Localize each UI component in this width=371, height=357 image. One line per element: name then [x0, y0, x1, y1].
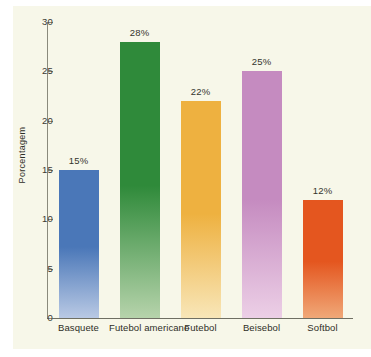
y-tick-label-row: 20 — [12, 115, 53, 127]
bar-value-label: 15% — [69, 155, 89, 166]
bar[interactable] — [181, 101, 221, 318]
bar-value-label: 25% — [252, 56, 272, 67]
bar-slot: 25% — [231, 22, 292, 318]
x-axis-category-label: Futebol americano — [109, 322, 170, 333]
bar-value-label: 12% — [313, 185, 333, 196]
x-axis-category-label: Futebol — [170, 322, 231, 333]
bar[interactable] — [242, 71, 282, 318]
y-tick-label-row: 30 — [12, 16, 53, 28]
x-axis-category-labels: BasqueteFutebol americanoFutebolBeisebol… — [48, 322, 353, 340]
bar-value-label: 22% — [191, 86, 211, 97]
bar-value-label: 28% — [130, 27, 150, 38]
bar[interactable] — [120, 42, 160, 318]
plot-area: 15%28%22%25%12% — [48, 22, 353, 318]
x-axis-category-label: Beisebol — [231, 322, 292, 333]
x-axis-category-label: Softbol — [292, 322, 353, 333]
y-tick-label-row: 0 — [12, 312, 53, 324]
x-axis-category-label: Basquete — [48, 322, 109, 333]
bar[interactable] — [59, 170, 99, 318]
y-axis-title: Porcentagem — [17, 115, 27, 195]
y-tick-label-row: 10 — [12, 213, 53, 225]
x-axis-line — [47, 318, 353, 319]
bar-slot: 12% — [292, 22, 353, 318]
y-tick-label-row: 5 — [12, 263, 53, 275]
bar[interactable] — [303, 200, 343, 318]
bar-slot: 22% — [170, 22, 231, 318]
bar-slot: 28% — [109, 22, 170, 318]
y-tick-label-row: 15 — [12, 164, 53, 176]
chart-page: Porcentagem 051015202530 15%28%22%25%12%… — [0, 0, 371, 357]
y-tick-label-row: 25 — [12, 65, 53, 77]
bar-slot: 15% — [48, 22, 109, 318]
